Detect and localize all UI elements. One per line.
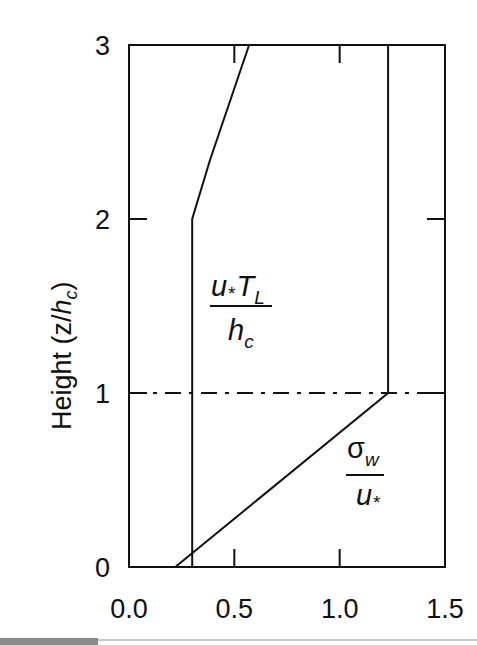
plot-frame	[129, 45, 445, 567]
x-tick-label: 1.0	[321, 594, 359, 624]
chart: 0.00.51.01.5 0123 Height (z/hc) u*TL hc …	[0, 0, 477, 645]
y-tick-label: 3	[95, 31, 110, 61]
x-tick-label: 0.5	[216, 594, 254, 624]
x-tick-label: 1.5	[426, 594, 464, 624]
y-tick-label: 0	[95, 553, 110, 583]
svg-text:u*: u*	[356, 479, 380, 513]
y-axis-title: Height (z/hc)	[47, 281, 81, 430]
svg-text:σw: σw	[347, 432, 380, 470]
y-tick-label: 2	[95, 205, 110, 235]
x-tick-label: 0.0	[110, 594, 148, 624]
svg-text:hc: hc	[228, 314, 254, 352]
footer-bar	[0, 638, 98, 645]
label-lagrangian-timescale: u*TL hc	[210, 270, 272, 352]
footer-divider	[98, 639, 477, 641]
y-tick-labels: 0123	[95, 31, 110, 583]
x-tick-labels: 0.00.51.01.5	[110, 594, 464, 624]
svg-text:u*TL: u*TL	[211, 270, 265, 308]
axis-ticks	[129, 45, 445, 567]
label-sigma-w: σw u*	[346, 432, 384, 513]
y-tick-label: 1	[95, 379, 110, 409]
